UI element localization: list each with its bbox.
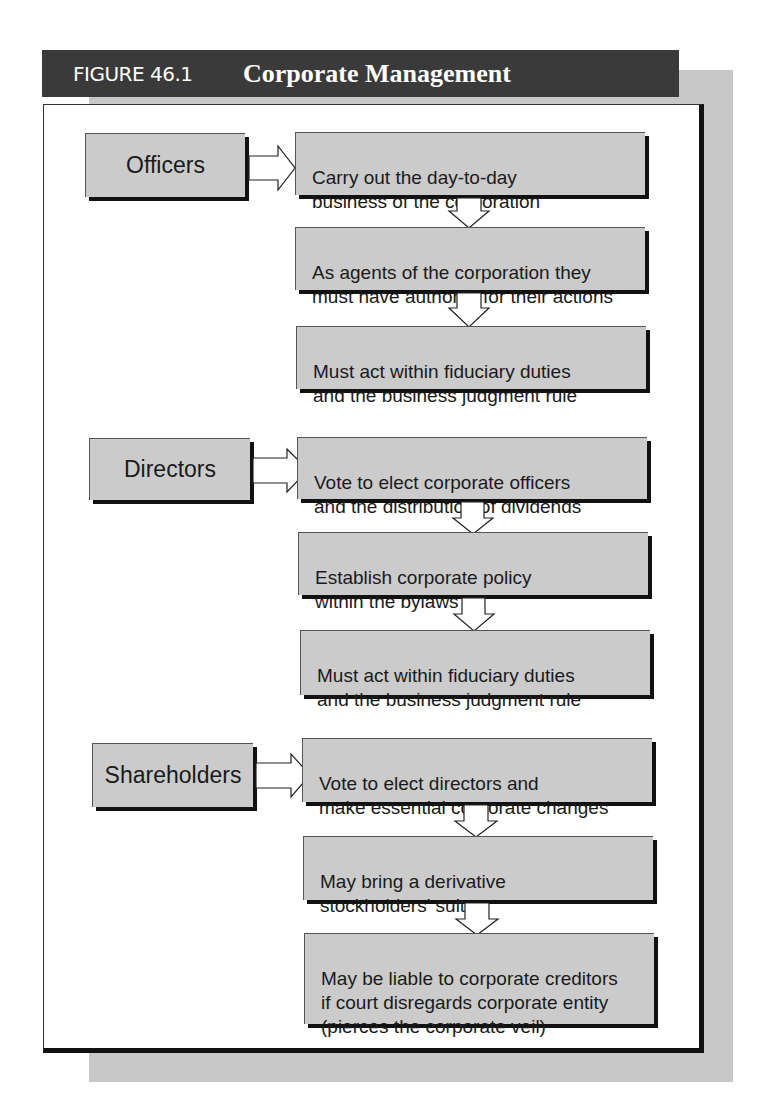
officers-step-1: Carry out the day-to-day business of the… (295, 132, 645, 195)
shareholders-step-3: May be liable to corporate creditors if … (304, 933, 654, 1024)
right-arrow-icon (253, 449, 303, 493)
directors-step-3: Must act within fiduciary duties and the… (300, 630, 650, 695)
section-label: Shareholders (105, 762, 242, 789)
figure-header: FIGURE 46.1 Corporate Management (42, 50, 679, 97)
officers-label-box: Officers (85, 133, 245, 197)
officers-step-3: Must act within fiduciary duties and the… (296, 326, 646, 389)
down-arrow-icon (448, 293, 490, 327)
down-arrow-icon (453, 598, 495, 632)
shareholders-step-1: Vote to elect directors and make essenti… (302, 738, 652, 802)
officers-step-2: As agents of the corporation they must h… (295, 227, 645, 290)
figure-number: FIGURE 46.1 (73, 62, 192, 86)
figure-title: Corporate Management (243, 59, 511, 89)
down-arrow-icon (456, 903, 498, 935)
directors-step-1: Vote to elect corporate officers and the… (297, 437, 647, 499)
directors-step-2: Establish corporate policy within the by… (298, 532, 648, 595)
shareholders-step-2: May bring a derivative stockholders' sui… (303, 836, 653, 900)
section-label: Officers (126, 152, 205, 179)
down-arrow-icon (452, 502, 494, 534)
right-arrow-icon (249, 146, 299, 190)
directors-label-box: Directors (89, 438, 250, 500)
right-arrow-icon (256, 754, 306, 798)
down-arrow-icon (455, 805, 497, 837)
shareholders-label-box: Shareholders (92, 743, 253, 807)
down-arrow-icon (448, 198, 490, 228)
section-label: Directors (124, 456, 216, 483)
